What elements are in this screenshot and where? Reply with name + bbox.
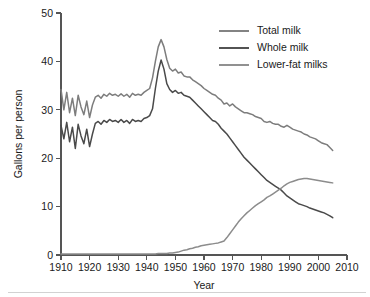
series-line-lower-fat-milks bbox=[61, 179, 333, 255]
chart-legend: Total milkWhole milkLower-fat milks bbox=[219, 24, 328, 70]
x-tick-label: 1920 bbox=[78, 261, 102, 273]
x-tick-label: 2010 bbox=[335, 261, 359, 273]
x-tick-label: 1910 bbox=[49, 261, 73, 273]
x-axis-ticks: 1910192019301940195019601970198019902000… bbox=[49, 255, 359, 273]
x-tick-label: 1950 bbox=[164, 261, 188, 273]
data-series-group bbox=[61, 40, 333, 254]
x-tick-label: 1930 bbox=[107, 261, 131, 273]
legend-label-2: Whole milk bbox=[257, 41, 309, 53]
x-tick-label: 2000 bbox=[307, 261, 331, 273]
y-tick-label: 20 bbox=[41, 152, 53, 164]
y-tick-label: 10 bbox=[41, 200, 53, 212]
legend-label-1: Total milk bbox=[257, 24, 302, 36]
y-tick-label: 0 bbox=[47, 249, 53, 261]
x-axis-title: Year bbox=[193, 279, 215, 291]
series-line-whole-milk bbox=[61, 60, 333, 218]
x-tick-label: 1940 bbox=[135, 261, 159, 273]
x-tick-label: 1980 bbox=[250, 261, 274, 273]
y-axis-title: Gallons per person bbox=[12, 89, 24, 178]
x-tick-label: 1970 bbox=[221, 261, 245, 273]
y-axis-ticks: 01020304050 bbox=[41, 7, 61, 261]
x-tick-label: 1960 bbox=[192, 261, 216, 273]
chart-plot-area: 01020304050 1910192019301940195019601970… bbox=[0, 0, 370, 297]
y-tick-label: 30 bbox=[41, 104, 53, 116]
legend-label-3: Lower-fat milks bbox=[257, 58, 328, 70]
y-tick-label: 40 bbox=[41, 55, 53, 67]
milk-consumption-chart: 01020304050 1910192019301940195019601970… bbox=[0, 0, 370, 297]
footer-divider bbox=[8, 292, 366, 293]
y-tick-label: 50 bbox=[41, 7, 53, 19]
x-tick-label: 1990 bbox=[278, 261, 302, 273]
series-line-total-milk bbox=[61, 40, 333, 151]
